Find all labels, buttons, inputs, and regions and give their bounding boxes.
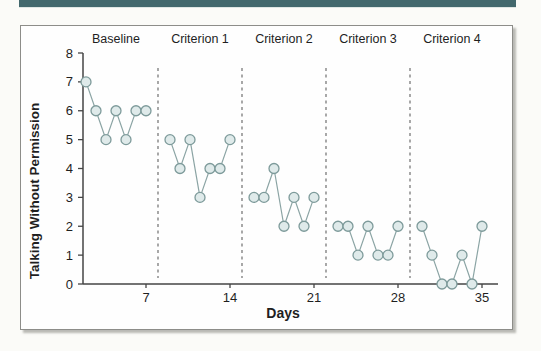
data-point: [121, 135, 131, 145]
data-point: [437, 279, 447, 289]
data-point: [393, 221, 403, 231]
data-point: [141, 106, 151, 116]
y-tick-label: 3: [66, 190, 73, 205]
data-point: [131, 106, 141, 116]
phase-label: Baseline: [92, 32, 140, 46]
data-point: [427, 250, 437, 260]
data-point: [353, 250, 363, 260]
y-tick-label: 4: [66, 161, 73, 176]
data-point: [309, 192, 319, 202]
data-point: [195, 192, 205, 202]
data-point: [383, 250, 393, 260]
y-tick-label: 7: [66, 74, 73, 89]
phase-label: Criterion 4: [423, 32, 481, 46]
data-point: [101, 135, 111, 145]
x-tick-label: 7: [142, 290, 149, 305]
data-point: [185, 135, 195, 145]
data-point: [165, 135, 175, 145]
x-tick-label: 21: [307, 290, 321, 305]
phase-label: Criterion 1: [171, 32, 229, 46]
chart-canvas: 012345678714212835BaselineCriterion 1Cri…: [21, 26, 512, 329]
x-axis-title: Days: [266, 305, 300, 321]
chart-panel: 012345678714212835BaselineCriterion 1Cri…: [20, 25, 513, 330]
data-point: [225, 135, 235, 145]
y-tick-label: 2: [66, 219, 73, 234]
data-point: [81, 77, 91, 87]
phase-label: Criterion 3: [339, 32, 397, 46]
top-accent-bar: [19, 0, 516, 8]
data-point: [279, 221, 289, 231]
data-point: [259, 192, 269, 202]
phase-label: Criterion 2: [255, 32, 313, 46]
data-point: [467, 279, 477, 289]
data-point: [477, 221, 487, 231]
data-point: [175, 164, 185, 174]
data-point: [91, 106, 101, 116]
x-tick-label: 28: [391, 290, 405, 305]
y-tick-label: 1: [66, 248, 73, 263]
data-point: [205, 164, 215, 174]
data-point: [457, 250, 467, 260]
data-point: [215, 164, 225, 174]
data-point: [249, 192, 259, 202]
data-point: [417, 221, 427, 231]
data-point: [373, 250, 383, 260]
x-tick-label: 35: [475, 290, 489, 305]
data-point: [447, 279, 457, 289]
data-point: [333, 221, 343, 231]
data-point: [111, 106, 121, 116]
y-tick-label: 0: [66, 277, 73, 292]
data-point: [289, 192, 299, 202]
data-point: [269, 164, 279, 174]
y-tick-label: 8: [66, 46, 73, 61]
data-point: [363, 221, 373, 231]
y-tick-label: 5: [66, 132, 73, 147]
x-tick-label: 14: [223, 290, 237, 305]
y-axis-title: Talking Without Permission: [27, 103, 42, 280]
data-point: [343, 221, 353, 231]
data-point: [299, 221, 309, 231]
y-tick-label: 6: [66, 103, 73, 118]
